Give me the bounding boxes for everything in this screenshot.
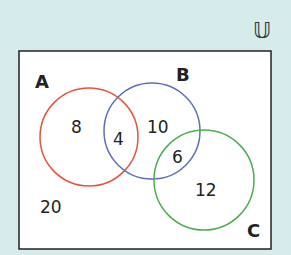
set-c-label: C (247, 220, 260, 241)
region-outside: 20 (40, 197, 62, 217)
set-b-label: B (176, 64, 190, 85)
venn-diagram: A B C 8 4 10 6 12 20 (0, 0, 291, 255)
region-b-only: 10 (147, 117, 169, 137)
region-c-only: 12 (195, 180, 217, 200)
region-a-and-b: 4 (113, 129, 124, 149)
region-b-and-c: 6 (172, 147, 183, 167)
universal-set-box (19, 51, 271, 249)
region-a-only: 8 (71, 117, 82, 137)
set-a-label: A (35, 71, 49, 92)
